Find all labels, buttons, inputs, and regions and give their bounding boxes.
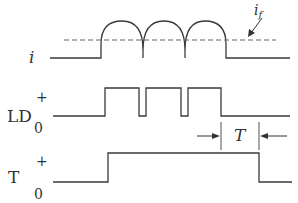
t-waveform [53, 153, 292, 182]
ld-label: LD [7, 106, 32, 126]
t-label: T [8, 167, 20, 187]
i-f-label: if [254, 2, 264, 20]
current-waveform [50, 21, 290, 58]
i-f-arrow-icon [248, 18, 262, 37]
t-plus-label: + [36, 153, 48, 169]
timing-diagram: i if LD + 0 T T + 0 [0, 0, 298, 203]
right-arrow-icon [212, 133, 220, 139]
t-zero-label: 0 [34, 186, 43, 202]
ld-waveform [53, 88, 290, 116]
left-arrow-icon [260, 133, 268, 139]
period-label: T [234, 125, 247, 145]
ld-plus-label: + [36, 89, 48, 105]
ld-zero-label: 0 [34, 120, 43, 136]
i-label: i [29, 47, 34, 67]
